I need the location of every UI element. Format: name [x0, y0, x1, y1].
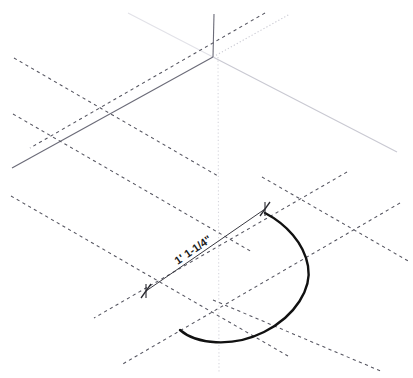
axis-vertical — [213, 14, 214, 57]
construction-dashed-lower-left — [11, 196, 288, 356]
axis-vertical-dotted-down — [218, 57, 219, 372]
isometric-arc — [180, 213, 309, 342]
dimension-line — [146, 209, 265, 291]
cad-drawing-canvas: 1' 1-1/4" — [0, 0, 413, 378]
construction-dashed-mid-left — [13, 114, 252, 252]
axis-group — [12, 13, 397, 372]
construction-dashed-right-upper — [30, 13, 265, 148]
construction-dashed-upper-left — [14, 58, 218, 176]
construction-dashed-crossing-low — [262, 177, 410, 262]
axis-left-30deg — [12, 57, 213, 168]
cad-drawing-svg: 1' 1-1/4" — [0, 0, 413, 378]
construction-dashed-right-mid — [94, 172, 347, 318]
construction-dashed-crossing-bottom — [213, 300, 383, 372]
construction-lines-group — [11, 13, 410, 372]
construction-dashed-right-lower — [121, 203, 400, 365]
arc-diameter-dimension: 1' 1-1/4" — [141, 202, 270, 298]
axis-right-30deg — [213, 57, 397, 152]
